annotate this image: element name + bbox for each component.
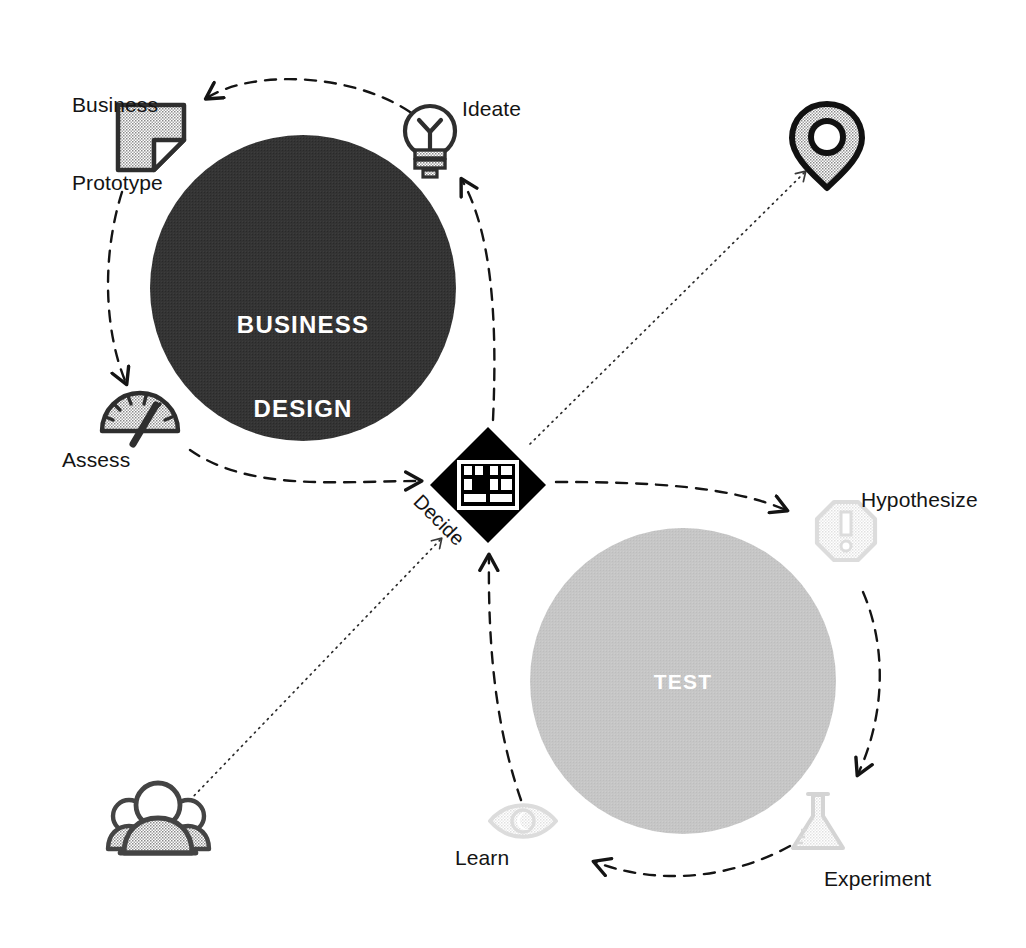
diagram-canvas: Business Prototype Ideate Assess Hypothe… — [0, 0, 1026, 948]
connector-decide-to-ideate — [462, 180, 494, 420]
node-label-hypothesize: Hypothesize — [861, 487, 978, 513]
node-label-business-prototype-line1: Business — [72, 92, 163, 118]
eye-icon — [490, 805, 556, 837]
lightbulb-icon — [405, 106, 455, 177]
connector-decide-to-location-pin — [530, 172, 805, 444]
map-pin-icon — [792, 104, 862, 188]
people-group-icon — [108, 783, 209, 853]
connector-hypothesize-to-experiment — [858, 592, 880, 774]
hub-label-business-design-line1: BUSINESS — [153, 311, 453, 339]
connector-people-group-to-decide — [190, 539, 441, 800]
connector-experiment-to-learn — [595, 846, 790, 876]
connector-ideate-to-business-prototype — [207, 79, 410, 112]
hub-label-business-design-line2: DESIGN — [153, 395, 453, 423]
node-label-assess: Assess — [62, 447, 130, 473]
hub-label-business-design: BUSINESS DESIGN — [153, 255, 453, 479]
hub-label-test: TEST — [533, 670, 833, 694]
node-label-ideate: Ideate — [462, 96, 521, 122]
node-label-learn: Learn — [455, 845, 509, 871]
connector-learn-to-decide — [489, 556, 521, 800]
node-label-business-prototype-line2: Prototype — [72, 170, 163, 196]
node-label-business-prototype: Business Prototype — [72, 40, 163, 248]
node-label-experiment: Experiment — [824, 866, 931, 892]
connector-decide-to-hypothesize — [556, 482, 786, 510]
flask-icon — [793, 794, 843, 848]
